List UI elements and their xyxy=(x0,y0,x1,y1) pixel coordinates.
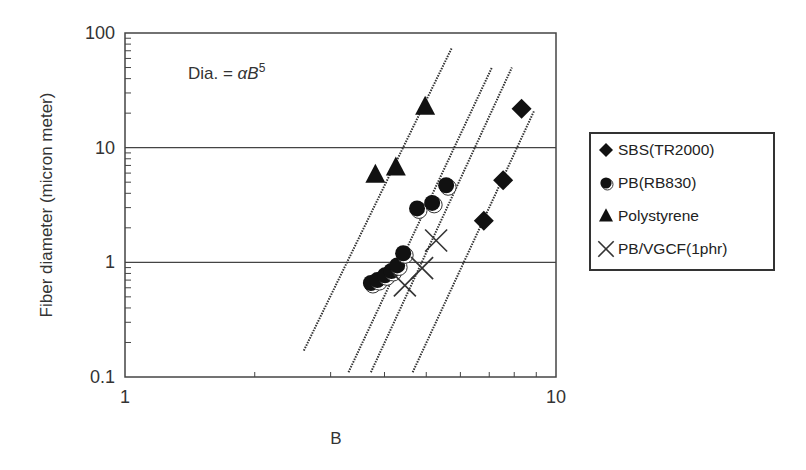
circle-marker xyxy=(395,245,411,261)
legend: SBS(TR2000)PB(RB830)PolystyrenePB/VGCF(1… xyxy=(589,132,775,271)
y-axis-label: Fiber diameter (micron meter) xyxy=(37,93,56,318)
y-tick-label: 10 xyxy=(95,138,115,158)
triangle-marker xyxy=(599,208,613,221)
legend-label: Polystyrene xyxy=(618,207,699,225)
y-tick-label: 100 xyxy=(85,23,115,43)
circle-half-legend-icon xyxy=(597,173,615,193)
x-legend-icon xyxy=(597,239,615,259)
circle-marker xyxy=(438,177,454,193)
triangle-marker xyxy=(386,157,406,176)
circle-marker xyxy=(600,177,611,188)
legend-label: PB/VGCF(1phr) xyxy=(618,240,727,258)
triangle-marker xyxy=(365,164,385,183)
diamond-marker xyxy=(474,211,494,231)
triangle-legend-icon xyxy=(597,206,615,226)
circle-marker xyxy=(409,200,425,216)
diamond-marker xyxy=(493,170,513,190)
legend-label: SBS(TR2000) xyxy=(618,141,714,159)
x-tick-label: 10 xyxy=(546,387,566,407)
y-tick-label: 1 xyxy=(105,252,115,272)
circle-marker xyxy=(424,195,440,211)
legend-item: SBS(TR2000) xyxy=(597,140,714,160)
x-axis-label: B xyxy=(330,429,341,448)
legend-item: Polystyrene xyxy=(597,206,699,226)
legend-item: PB(RB830) xyxy=(597,173,696,193)
diamond-marker xyxy=(599,143,613,157)
diamond-marker xyxy=(512,99,532,119)
triangle-marker xyxy=(415,96,435,115)
equation-annotation: Dia. = αB5 xyxy=(188,61,266,83)
legend-label: PB(RB830) xyxy=(618,174,696,192)
y-tick-label: 0.1 xyxy=(90,367,115,387)
x-tick-label: 1 xyxy=(120,387,130,407)
legend-item: PB/VGCF(1phr) xyxy=(597,239,727,259)
diamond-legend-icon xyxy=(597,140,615,160)
